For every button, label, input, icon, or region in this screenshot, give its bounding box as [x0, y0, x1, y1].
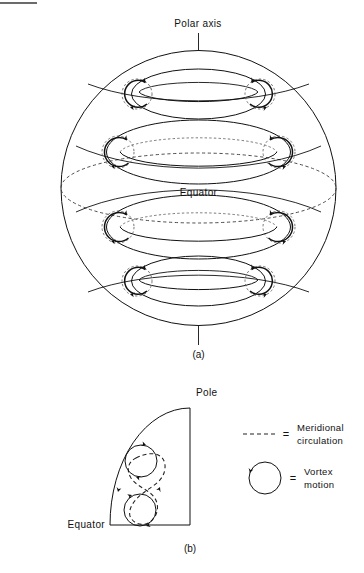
- legend-label-line2: circulation: [297, 435, 343, 446]
- figure-root: Polar axis: [0, 0, 364, 573]
- figure-canvas: Polar axis: [0, 0, 364, 573]
- panel-a: Polar axis: [61, 18, 336, 360]
- sphere-latitude-band-upper: [88, 84, 309, 101]
- legend-item-vortex-motion: = Vortex motion: [247, 462, 334, 494]
- vortex-rotation-arc-right: [269, 213, 293, 242]
- vortex-rotation-arc-left: [104, 213, 128, 242]
- legend-label-line2: motion: [304, 479, 334, 490]
- vortex-torus-south-low: [88, 256, 309, 306]
- torus-inner-back-arc-dashed: [120, 138, 277, 152]
- page-top-rule: [0, 2, 37, 4]
- polar-axis-label: Polar axis: [174, 18, 221, 29]
- vortex-torus-north-high: [88, 69, 309, 119]
- torus-inner-front-arc: [139, 280, 258, 290]
- torus-inner-front-arc: [120, 227, 277, 241]
- legend-item-meridional-circulation: = Meridional circulation: [243, 422, 344, 446]
- torus-inner-front-arc: [139, 92, 258, 102]
- panel-b-tag: (b): [184, 543, 196, 554]
- torus-inner-back-arc: [139, 82, 258, 92]
- legend-label-line1: Vortex: [304, 466, 333, 477]
- vortex-rotation-arc-right: [269, 138, 293, 167]
- legend-equals-sign: =: [283, 428, 289, 440]
- quadrant-surface-arc: [110, 408, 190, 525]
- vortex-circle: [124, 494, 156, 526]
- panel-a-tag: (a): [192, 349, 204, 360]
- meridional-flow-arrow-ascending: [156, 486, 162, 492]
- legend-equals-sign: =: [290, 472, 296, 484]
- equator-label: Equator: [180, 187, 218, 198]
- torus-inner-back-arc-dashed: [120, 213, 277, 227]
- equator-label: Equator: [68, 519, 106, 530]
- circle-arrow-icon: [249, 462, 281, 494]
- meridional-flow-arrow-descending: [115, 487, 121, 493]
- vortex-cell-lower: [124, 493, 156, 528]
- legend-label-line1: Meridional: [297, 422, 344, 433]
- vortex-torus-south-high: [76, 190, 321, 259]
- vortex-rotation-arc-left: [104, 138, 128, 167]
- legend: = Meridional circulation = Vortex motion: [243, 422, 344, 494]
- panel-b: Pole Equ: [68, 387, 218, 554]
- vortex-circle: [125, 445, 157, 477]
- pole-label: Pole: [196, 387, 218, 398]
- vortex-torus-north-low: [76, 120, 321, 184]
